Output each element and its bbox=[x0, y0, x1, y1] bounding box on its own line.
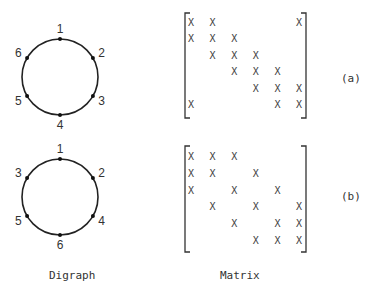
figure-tag-b: (b) bbox=[341, 190, 361, 203]
matrix-cell: X bbox=[296, 218, 302, 229]
matrix-cell: X bbox=[210, 151, 216, 162]
matrix-cell: X bbox=[274, 99, 280, 110]
node-label: 2 bbox=[98, 46, 105, 60]
node-dot bbox=[91, 214, 95, 218]
figure-tag-a: (a) bbox=[341, 72, 361, 85]
node-dot bbox=[25, 214, 29, 218]
matrix-cell: X bbox=[274, 83, 280, 94]
node-dot bbox=[91, 56, 95, 60]
node-dot bbox=[91, 176, 95, 180]
matrix-cell: X bbox=[210, 168, 216, 179]
matrix-cell: X bbox=[253, 168, 259, 179]
node-label: 5 bbox=[15, 94, 22, 108]
matrix-cell: X bbox=[210, 201, 216, 212]
matrix-cell: X bbox=[296, 83, 302, 94]
matrix-b-brackets bbox=[185, 146, 306, 252]
matrix-cell: X bbox=[253, 66, 259, 77]
matrix-cell: X bbox=[231, 185, 237, 196]
matrix-cell: X bbox=[188, 168, 194, 179]
matrix-cell: X bbox=[253, 50, 259, 61]
matrix-cell: X bbox=[188, 185, 194, 196]
node-dot bbox=[25, 94, 29, 98]
matrix-cell: X bbox=[296, 17, 302, 28]
node-label: 2 bbox=[98, 166, 105, 180]
matrix-cell: X bbox=[210, 17, 216, 28]
digraph-circle bbox=[22, 159, 98, 235]
matrix-cell: X bbox=[274, 218, 280, 229]
matrix-cell: X bbox=[188, 17, 194, 28]
node-label: 6 bbox=[57, 238, 64, 252]
matrix-cell: X bbox=[210, 50, 216, 61]
matrix-cell: X bbox=[231, 33, 237, 44]
node-dot bbox=[58, 157, 62, 161]
node-label: 3 bbox=[15, 166, 22, 180]
matrix-a: XXXXXXXXXXXXXXXXXX bbox=[188, 17, 302, 110]
node-label: 4 bbox=[98, 214, 105, 228]
matrix-cell: X bbox=[188, 151, 194, 162]
matrix-cell: X bbox=[210, 33, 216, 44]
matrix-cell: X bbox=[296, 201, 302, 212]
matrix-cell: X bbox=[253, 201, 259, 212]
node-dot bbox=[25, 56, 29, 60]
digraph-caption: Digraph bbox=[49, 269, 95, 282]
node-dot bbox=[58, 37, 62, 41]
matrix-cell: X bbox=[274, 235, 280, 246]
matrix-cell: X bbox=[231, 50, 237, 61]
matrix-cell: X bbox=[274, 66, 280, 77]
node-dot bbox=[58, 113, 62, 117]
digraph-a: 123456 bbox=[15, 22, 105, 132]
digraph-circle bbox=[22, 39, 98, 115]
node-label: 1 bbox=[57, 142, 64, 156]
node-dot bbox=[91, 94, 95, 98]
node-label: 6 bbox=[15, 46, 22, 60]
matrix-cell: X bbox=[253, 235, 259, 246]
matrix-cell: X bbox=[274, 185, 280, 196]
matrix-cell: X bbox=[231, 151, 237, 162]
node-label: 5 bbox=[15, 214, 22, 228]
matrix-cell: X bbox=[231, 218, 237, 229]
matrix-a-brackets bbox=[185, 13, 306, 118]
matrix-b: XXXXXXXXXXXXXXXXXX bbox=[188, 151, 302, 246]
matrix-cell: X bbox=[231, 66, 237, 77]
matrix-cell: X bbox=[188, 33, 194, 44]
node-label: 4 bbox=[57, 118, 64, 132]
matrix-cell: X bbox=[296, 99, 302, 110]
matrix-cell: X bbox=[253, 83, 259, 94]
matrix-cell: X bbox=[188, 99, 194, 110]
node-dot bbox=[58, 233, 62, 237]
figure-canvas: 123456 124653 XXXXXXXXXXXXXXXXXX XXXXXXX… bbox=[0, 0, 366, 292]
digraph-b: 124653 bbox=[15, 142, 105, 252]
node-label: 1 bbox=[57, 22, 64, 36]
node-label: 3 bbox=[98, 94, 105, 108]
matrix-caption: Matrix bbox=[220, 269, 260, 282]
matrix-cell: X bbox=[296, 235, 302, 246]
node-dot bbox=[25, 176, 29, 180]
